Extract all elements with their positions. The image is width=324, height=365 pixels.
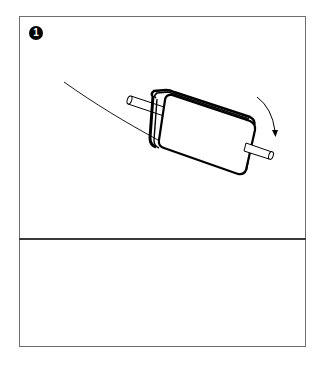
clockwise-arrow-icon	[257, 97, 278, 137]
curved-surface-line	[64, 82, 158, 140]
roll-front-face	[159, 95, 255, 174]
caption-area	[20, 240, 305, 346]
